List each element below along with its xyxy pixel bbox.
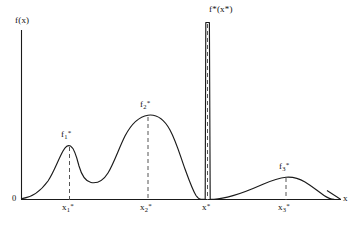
y-axis-label: f(x) bbox=[15, 16, 29, 25]
xstar-star: * bbox=[207, 202, 211, 210]
x3-star: * bbox=[286, 202, 290, 210]
function-plot-figure: f(x) 0 x f1* f2* f*(x*) f3* x1* x2* x* x… bbox=[0, 0, 354, 229]
x2-tick-label: x2* bbox=[140, 203, 152, 214]
x-axis-label: x bbox=[343, 194, 348, 203]
peak3-label: f3* bbox=[279, 162, 289, 173]
peak1-star: * bbox=[68, 129, 72, 137]
x3-tick-label: x3* bbox=[278, 203, 290, 214]
peak1-label: f1* bbox=[61, 130, 71, 141]
xstar-tick-label: x* bbox=[202, 203, 210, 212]
x1-tick-label: x1* bbox=[62, 203, 74, 214]
function-curve bbox=[22, 23, 334, 200]
peak2-star: * bbox=[147, 99, 151, 107]
x1-star: * bbox=[70, 202, 74, 210]
origin-label: 0 bbox=[12, 194, 16, 203]
peak3-star: * bbox=[286, 161, 290, 169]
peak2-label: f2* bbox=[140, 100, 150, 111]
global-max-label: f*(x*) bbox=[209, 5, 233, 14]
plot-canvas bbox=[0, 0, 354, 229]
x2-star: * bbox=[148, 202, 152, 210]
